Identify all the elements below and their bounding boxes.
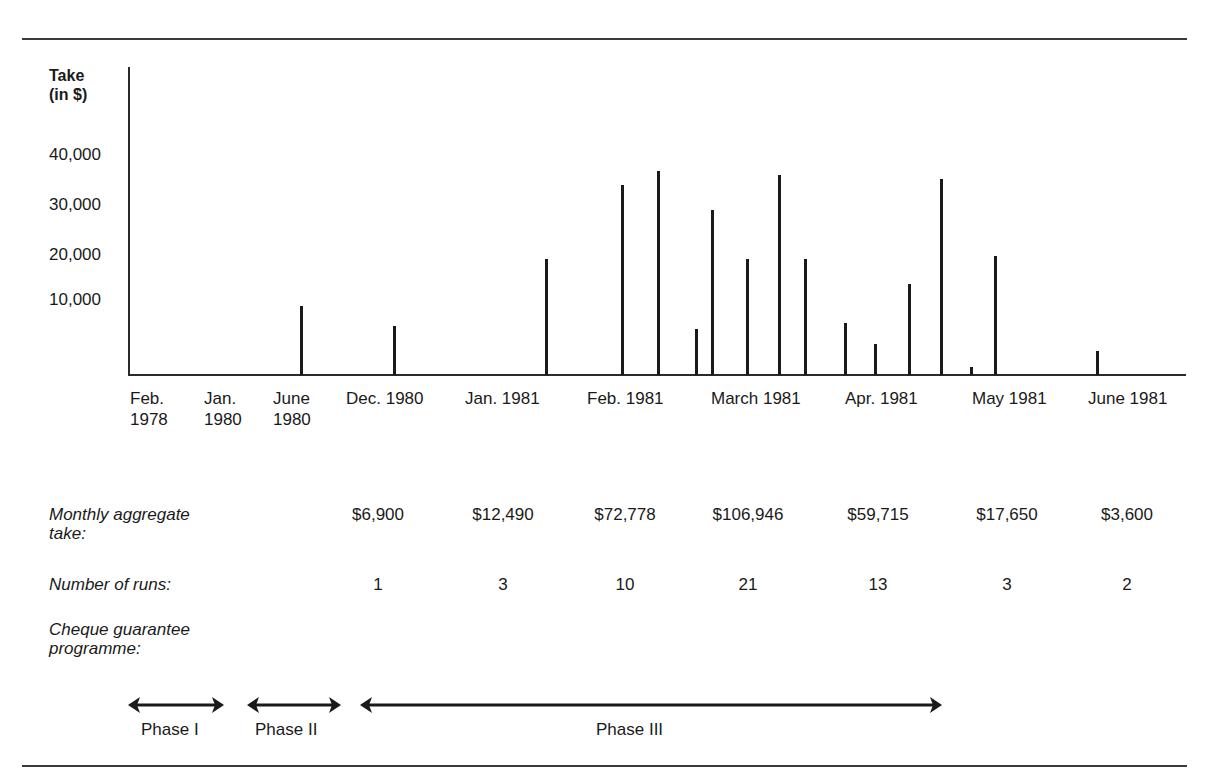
x-tick-line1: June 1981 (1088, 388, 1167, 409)
aggregate-value: $3,600 (1067, 505, 1187, 525)
row-label-aggregate-line2: take: (49, 524, 190, 543)
x-tick-label: Jan. 1981 (465, 388, 540, 409)
runs-value: 1 (318, 575, 438, 595)
phase-double-arrow-icon (247, 696, 341, 714)
runs-value: 3 (947, 575, 1067, 595)
aggregate-value: $12,490 (443, 505, 563, 525)
x-tick-line1: Dec. 1980 (346, 388, 424, 409)
x-tick-line1: March 1981 (711, 388, 801, 409)
row-label-runs: Number of runs: (49, 575, 171, 594)
bar (804, 259, 807, 375)
y-axis-title-line2: (in $) (49, 85, 87, 104)
x-tick-line1: Jan. 1981 (465, 388, 540, 409)
y-tick-label: 20,000 (49, 245, 101, 265)
bar (844, 323, 847, 375)
x-tick-label: June1980 (273, 388, 311, 430)
y-axis-title-line1: Take (49, 66, 87, 85)
aggregate-value: $72,778 (565, 505, 685, 525)
y-tick-label: 30,000 (49, 195, 101, 215)
x-tick-line1: Feb. (130, 388, 168, 409)
bar (908, 284, 911, 375)
runs-value: 10 (565, 575, 685, 595)
runs-value: 21 (688, 575, 808, 595)
x-tick-label: May 1981 (972, 388, 1047, 409)
bar (695, 329, 698, 375)
phase-label: Phase III (596, 720, 663, 740)
y-tick-label: 40,000 (49, 145, 101, 165)
aggregate-value: $6,900 (318, 505, 438, 525)
x-tick-label: March 1981 (711, 388, 801, 409)
phase-label: Phase II (255, 720, 317, 740)
bar (994, 256, 997, 375)
bar (970, 367, 973, 375)
row-label-cheque-line2: programme: (49, 639, 190, 658)
x-tick-line1: Apr. 1981 (845, 388, 918, 409)
x-tick-label: Feb. 1981 (587, 388, 664, 409)
x-tick-line2: 1980 (204, 409, 242, 430)
x-tick-line2: 1980 (273, 409, 311, 430)
row-label-aggregate-line1: Monthly aggregate (49, 505, 190, 524)
row-label-cheque: Cheque guarantee programme: (49, 620, 190, 658)
bar (657, 171, 660, 375)
row-label-aggregate: Monthly aggregate take: (49, 505, 190, 543)
phase-label: Phase I (141, 720, 199, 740)
runs-value: 3 (443, 575, 563, 595)
x-tick-line1: May 1981 (972, 388, 1047, 409)
x-tick-label: Jan.1980 (204, 388, 242, 430)
bar (1096, 351, 1099, 375)
aggregate-value: $59,715 (818, 505, 938, 525)
phase-double-arrow-icon (360, 696, 942, 714)
x-tick-line1: Feb. 1981 (587, 388, 664, 409)
bar (393, 326, 396, 375)
x-tick-line2: 1978 (130, 409, 168, 430)
aggregate-value: $106,946 (688, 505, 808, 525)
runs-value: 2 (1067, 575, 1187, 595)
x-tick-line1: June (273, 388, 311, 409)
bottom-rule (22, 765, 1187, 767)
bar (746, 259, 749, 375)
phase-double-arrow-icon (128, 696, 224, 714)
x-tick-line1: Jan. (204, 388, 242, 409)
x-tick-label: Feb.1978 (130, 388, 168, 430)
runs-value: 13 (818, 575, 938, 595)
bar (874, 344, 877, 375)
y-axis-title: Take (in $) (49, 66, 87, 104)
bar (545, 259, 548, 375)
aggregate-value: $17,650 (947, 505, 1067, 525)
x-tick-label: Apr. 1981 (845, 388, 918, 409)
bar (940, 179, 943, 375)
bar (300, 306, 303, 375)
y-tick-label: 10,000 (49, 290, 101, 310)
row-label-cheque-line1: Cheque guarantee (49, 620, 190, 639)
y-axis-line (128, 67, 130, 376)
bar (711, 210, 714, 375)
bar (778, 175, 781, 375)
x-tick-label: Dec. 1980 (346, 388, 424, 409)
bar (621, 185, 624, 375)
top-rule (22, 38, 1187, 40)
x-tick-label: June 1981 (1088, 388, 1167, 409)
